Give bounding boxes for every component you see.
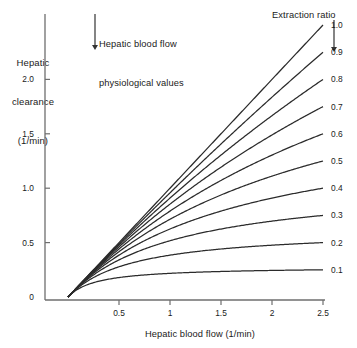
y-axis-tick-label: 2.0 (8, 74, 34, 84)
series-label-er-0.2: 0.2 (331, 238, 353, 248)
curve-er-0.7 (68, 107, 323, 297)
chart-axes (45, 14, 325, 305)
series-label-er-0.9: 0.9 (331, 47, 353, 57)
curve-er-0.5 (68, 161, 323, 297)
y-axis-tick-label: 1.0 (8, 183, 34, 193)
series-label-er-0.1: 0.1 (331, 265, 353, 275)
series-label-er-0.8: 0.8 (331, 74, 353, 84)
y-axis-tick-label: 1.5 (8, 129, 34, 139)
x-axis-tick-label: 1 (157, 308, 183, 318)
series-label-er-0.7: 0.7 (331, 102, 353, 112)
series-label-er-0.6: 0.6 (331, 129, 353, 139)
series-label-er-0.5: 0.5 (331, 156, 353, 166)
chart-arrows (92, 14, 337, 52)
curve-er-0.4 (68, 188, 323, 297)
x-axis-tick-label: 1.5 (208, 308, 234, 318)
x-axis-tick-label: 2.5 (310, 308, 336, 318)
series-label-er-1.0: 1.0 (331, 20, 353, 30)
curve-er-0.1 (68, 270, 323, 297)
y-axis-tick-label: 0.5 (8, 238, 34, 248)
x-axis-tick-label: 0.5 (106, 308, 132, 318)
series-label-er-0.3: 0.3 (331, 210, 353, 220)
series-label-er-0.4: 0.4 (331, 183, 353, 193)
chart-curves (68, 25, 323, 297)
hepatic-clearance-chart (0, 0, 357, 348)
physiological-values-down-arrow-icon-head (92, 45, 98, 50)
x-axis-tick-label: 2 (259, 308, 285, 318)
y-axis-tick-label: 0 (8, 292, 34, 302)
